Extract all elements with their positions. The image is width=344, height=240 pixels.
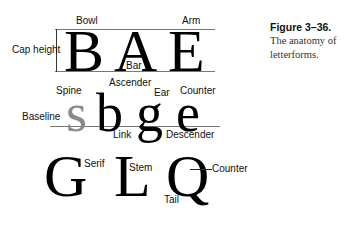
label-stem: Stem xyxy=(129,163,152,173)
label-tail: Tail xyxy=(164,195,179,205)
letter-L: L xyxy=(114,146,151,206)
label-cap-height: Cap height xyxy=(12,45,60,55)
label-link: Link xyxy=(113,130,131,140)
label-counter-q: Counter xyxy=(212,164,248,174)
letter-s: s xyxy=(66,86,87,140)
label-descender: Descender xyxy=(166,130,214,140)
letter-B: B xyxy=(64,21,104,81)
letter-g: g xyxy=(136,86,163,140)
letter-E: E xyxy=(168,21,205,81)
label-baseline: Baseline xyxy=(22,112,60,122)
label-serif: Serif xyxy=(84,159,105,169)
label-bar: Bar xyxy=(126,61,142,71)
figure-title: Figure 3–36. xyxy=(270,21,331,33)
letter-G: G xyxy=(44,146,87,206)
letter-A: A xyxy=(114,21,157,81)
figure-caption: The anatomy of letterforms. xyxy=(270,34,344,62)
counter-pointer xyxy=(190,169,212,170)
